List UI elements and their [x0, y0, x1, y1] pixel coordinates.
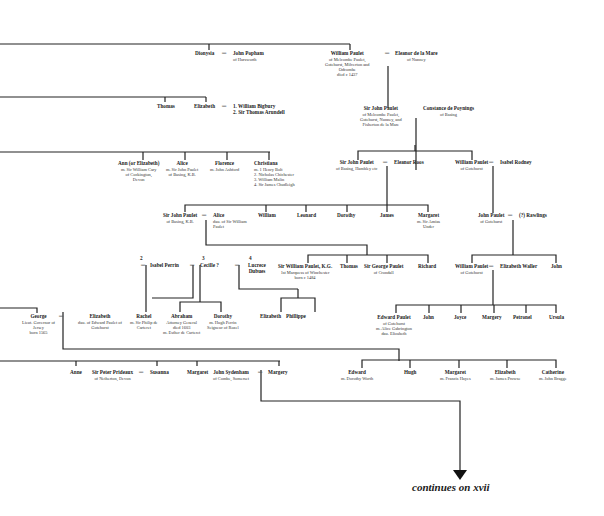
person-sir-john-paulet-1: Sir John Paulet of Melcombe Paulet, Gote…: [360, 106, 402, 127]
marriage-symbol: ═: [235, 262, 239, 268]
person-abraham: Abraham Attorney General died 1603 m. Es…: [163, 314, 200, 335]
person-elizabeth-3: Elizabeth m. James Prowse: [490, 370, 520, 381]
spouse-margery: Margery: [268, 370, 288, 376]
person-dorothy-2: Dorothy m. Hugh Perrin Seigneur of Rozel: [207, 314, 239, 330]
person-catherine: Catherine m. John Bragge: [539, 370, 567, 381]
marriage-symbol: ═: [489, 159, 493, 165]
person-elizabeth-1: Elizabeth: [194, 104, 215, 110]
person-leonard: Leonard: [297, 213, 316, 219]
person-anne: Anne: [70, 370, 82, 376]
spouse-elizabeth-waller: Elizabeth Waller: [500, 264, 537, 270]
person-thomas-2: Thomas: [340, 264, 358, 270]
person-john-2: John: [423, 315, 434, 321]
person-james: James: [380, 213, 394, 219]
person-george: George Lieut. Governor of Jersey born 15…: [22, 314, 55, 335]
person-william: William: [258, 213, 276, 219]
person-joyce: Joyce: [454, 315, 466, 321]
person-william-paulet-2: William Paulet of Gotehurst: [455, 160, 488, 171]
person-sir-john-paulet-2: Sir John Paulet of Basing, Hambley etc: [336, 160, 377, 171]
tree-connector-lines: [0, 0, 604, 516]
person-margery-1: Margery: [482, 315, 502, 321]
person-dionysia: Dionysia: [195, 51, 214, 57]
person-sir-john-paulet-3: Sir John Paulet of Basing, K.B.: [163, 213, 197, 224]
person-edward: Edward m. Dorothy Worth: [341, 370, 373, 381]
person-margaret-2: Margaret: [187, 370, 208, 376]
person-isabel-perrin: Isabel Perrin: [150, 263, 179, 269]
spouse-rawlings: (?) Rawlings: [519, 213, 547, 219]
person-john-1: John: [551, 264, 562, 270]
person-sir-george-paulet: Sir George Paulet of Crondall: [364, 264, 403, 275]
marriage-symbol: ═: [139, 369, 143, 375]
marriage-symbol: ═: [508, 212, 512, 218]
spouse-isabel-rodney: Isabel Rodney: [500, 160, 532, 166]
spouse-john-popham: John Popham of Hursworth: [233, 51, 264, 62]
marriage-symbol: ═: [258, 369, 262, 375]
person-thomas-1: Thomas: [157, 104, 175, 110]
person-ann: Ann (or Elizabeth) m. Sir William Cary o…: [118, 161, 159, 182]
person-sir-william-paulet-kg: Sir William Paulet, K.G. 1st Marquess of…: [278, 264, 332, 280]
person-cecille: Cecille ?: [200, 263, 219, 269]
person-christiana: Christiana m. 1 Henry Bolt 2. Nicholas C…: [254, 161, 295, 187]
person-elizabeth-2: Elizabeth: [260, 314, 281, 320]
spouses-elizabeth-1: 1. William Bigbury 2. Sir Thomas Arundel…: [233, 104, 285, 116]
marriage-symbol: ═: [489, 263, 493, 269]
spouse-constance-de-poynings: Constance de Poynings of Basing: [423, 106, 474, 117]
spouse-elizabeth: Elizabeth dau. of Edward Paulet of Goteh…: [74, 314, 126, 330]
person-petronel: Petronel: [513, 315, 532, 321]
person-william-paulet-1: William Paulet of Melcombe Paulet, Goteh…: [325, 51, 370, 77]
person-alice-1: Alice m. Sir John Paulet of Basing, K.B.: [166, 161, 198, 177]
spouse-eleanor-roos: Eleanor Roos: [394, 160, 424, 166]
person-sir-peter-prideaux: Sir Peter Prideaux of Netherton, Devon: [92, 370, 133, 381]
person-lucrece-dubues: Lucrece Dubues: [246, 263, 268, 275]
marriage-symbol: ═: [222, 103, 226, 109]
person-florence: Florence m. John Ashford: [210, 161, 239, 172]
spouse-eleanor-de-la-mare: Eleanor de la Mare of Nunney: [395, 51, 438, 62]
person-margaret-1: Margaret m. Sir Amias Under: [417, 213, 440, 229]
continuation-arrow-icon: [453, 470, 467, 480]
marriage-symbol: ═: [141, 262, 145, 268]
marriage-symbol: ═: [383, 159, 387, 165]
person-edward-paulet: Edward Paulet of Gotehurst m. Alice Gabr…: [376, 315, 412, 336]
marriage-symbol: ═: [202, 212, 206, 218]
person-hugh: Hugh: [404, 370, 416, 376]
person-john-paulet: John Paulet of Gotehurst: [478, 213, 504, 224]
spouse-susanna: Susanna: [150, 370, 169, 376]
continues-on-label: continues on xvii: [412, 481, 490, 493]
person-rachel: Rachel m. Sir Philip de Carteret: [130, 314, 158, 330]
person-dorothy: Dorothy: [337, 213, 355, 219]
marriage-symbol: ═: [385, 50, 389, 56]
person-phillippe: Phillippe: [286, 314, 306, 320]
person-ursula: Ursula: [549, 315, 564, 321]
marriage-symbol: ═: [190, 262, 194, 268]
marriage-symbol: ═: [222, 50, 226, 56]
person-margaret-3: Margaret m. Francis Hayes: [440, 370, 471, 381]
person-william-paulet-3: William Paulet of Gotehurst: [455, 264, 488, 275]
marriage-symbol: ═: [59, 313, 63, 319]
spouse-alice: Alice dau. of Sir William Paulet: [213, 213, 253, 229]
person-richard: Richard: [418, 264, 436, 270]
person-john-sydenham: John Sydenham of Combe, Somerset: [213, 370, 249, 381]
